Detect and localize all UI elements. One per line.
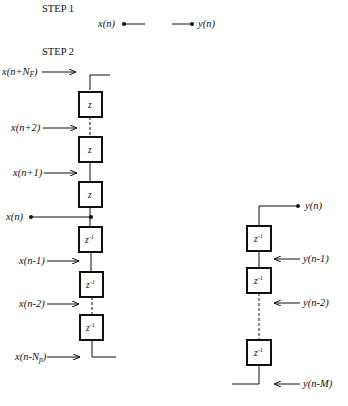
label-y-n: y(n) bbox=[304, 200, 322, 212]
right-top-wire bbox=[259, 206, 298, 226]
right-delay-chain: y(n) z-1 z-1 z-1 y(n-1) y(n-2) y(n-M) bbox=[232, 200, 333, 390]
left-top-wire bbox=[90, 75, 110, 90]
advance-box-3-label: z bbox=[87, 190, 92, 200]
label-x-n-minus-1: x(n-1) bbox=[18, 255, 45, 267]
label-x-n-plus-2: x(n+2) bbox=[10, 122, 41, 134]
diagram-canvas: STEP 1 x(n) y(n) STEP 2 z z z z-1 z-1 z-… bbox=[0, 0, 348, 406]
right-bottom-wire bbox=[232, 365, 259, 384]
label-y-n-minus-M: y(n-M) bbox=[302, 378, 333, 390]
label-x-n-minus-Np: x(n-Np) bbox=[14, 351, 47, 364]
left-delay-chain: z z z z-1 z-1 z-1 x(n+NF) x(n+2) x(n+1) … bbox=[1, 66, 116, 364]
step1-title: STEP 1 bbox=[42, 3, 74, 14]
label-x-n: x(n) bbox=[5, 211, 23, 223]
label-x-n-minus-2: x(n-2) bbox=[18, 298, 45, 310]
step1-output-node bbox=[190, 22, 194, 26]
advance-box-1-label: z bbox=[87, 100, 92, 110]
step1-input-label: x(n) bbox=[97, 18, 115, 30]
label-x-n-plus-NF: x(n+NF) bbox=[1, 66, 38, 79]
step2-title: STEP 2 bbox=[42, 46, 74, 57]
label-y-n-minus-2: y(n-2) bbox=[302, 297, 329, 309]
y-n-output-node bbox=[296, 204, 300, 208]
label-y-n-minus-1: y(n-1) bbox=[302, 253, 329, 265]
advance-box-2-label: z bbox=[87, 145, 92, 155]
step1-output-label: y(n) bbox=[197, 18, 215, 30]
label-x-n-plus-1: x(n+1) bbox=[12, 167, 43, 179]
left-bottom-wire bbox=[92, 340, 116, 357]
